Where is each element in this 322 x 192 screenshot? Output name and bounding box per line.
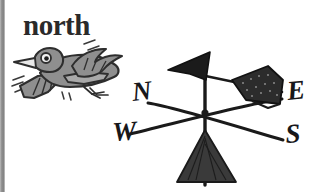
compass-label-west: W — [111, 115, 139, 147]
illustration-page: north — [0, 0, 322, 192]
bird-beak — [14, 58, 36, 68]
weather-vane-hub — [201, 109, 208, 116]
compass-label-east: E — [284, 74, 306, 106]
weather-vane-illustration: N E W S — [111, 52, 306, 185]
weather-vane-arrowhead — [168, 52, 210, 80]
bird-eye-pupil — [44, 56, 49, 61]
bird-feet — [84, 87, 108, 98]
weather-vane-fin — [177, 130, 236, 182]
compass-label-north: N — [129, 75, 154, 107]
illustration-canvas: N E W S — [0, 0, 322, 192]
weather-vane-fletching — [232, 66, 283, 104]
bird-illustration — [12, 40, 122, 100]
compass-bar-north-south — [148, 103, 283, 140]
compass-label-south: S — [284, 118, 301, 149]
